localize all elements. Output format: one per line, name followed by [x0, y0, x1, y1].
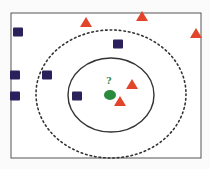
query-point: [104, 90, 116, 100]
square-point: [113, 40, 123, 49]
square-point: [72, 92, 82, 101]
query-label: ?: [106, 76, 111, 86]
square-point: [10, 71, 20, 80]
square-point: [13, 28, 23, 37]
knn-diagram: ?: [0, 0, 210, 169]
square-point: [10, 92, 20, 101]
square-point: [42, 71, 52, 80]
